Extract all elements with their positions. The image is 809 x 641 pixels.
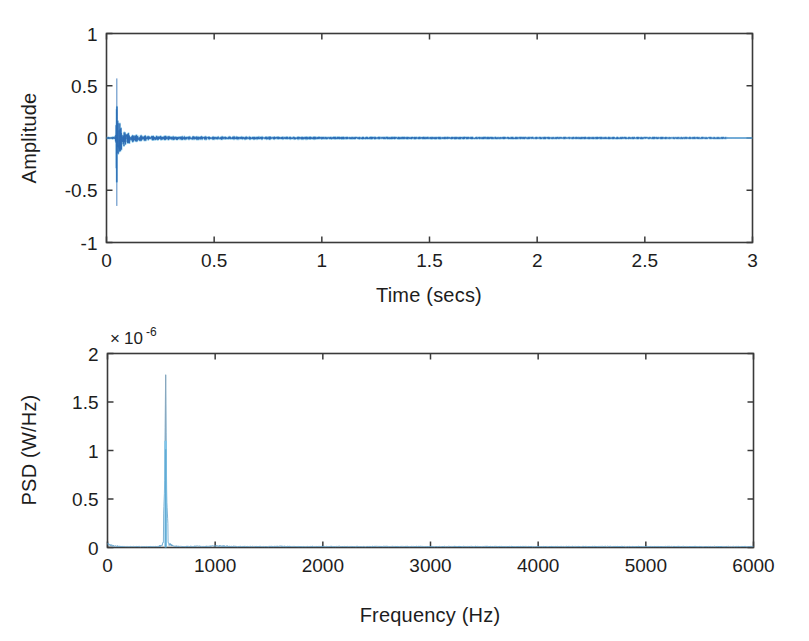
time-x-tick-label: 2.5 xyxy=(632,250,658,271)
psd-y-tick-labels: 00.511.52 xyxy=(72,344,98,559)
time-y-tick-label: 0 xyxy=(87,128,98,149)
psd-x-tick-label: 1000 xyxy=(194,555,236,576)
psd-axis-box xyxy=(108,354,754,548)
psd-plot: 0100020003000400050006000 00.511.52 × 10… xyxy=(0,320,809,641)
time-domain-panel: 00.511.522.53 -1-0.500.51 Time (secs) Am… xyxy=(0,0,809,320)
psd-axis-ticks xyxy=(108,354,754,548)
psd-exponent-times: × xyxy=(110,329,120,348)
time-x-tick-label: 2 xyxy=(532,250,543,271)
time-domain-trace xyxy=(107,78,753,205)
time-y-tick-label: -0.5 xyxy=(65,180,98,201)
psd-y-tick-label: 0 xyxy=(88,538,99,559)
time-x-tick-label: 3 xyxy=(747,250,758,271)
time-y-axis-label: Amplitude xyxy=(18,93,40,184)
time-domain-plot: 00.511.522.53 -1-0.500.51 Time (secs) Am… xyxy=(0,0,809,320)
psd-trace xyxy=(108,375,754,548)
time-x-tick-labels: 00.511.522.53 xyxy=(101,250,758,271)
psd-x-tick-label: 3000 xyxy=(409,555,451,576)
psd-panel: 0100020003000400050006000 00.511.52 × 10… xyxy=(0,320,809,641)
psd-exponent-base: 10 xyxy=(124,329,143,348)
time-y-tick-label: -1 xyxy=(81,233,98,254)
psd-x-tick-label: 4000 xyxy=(517,555,559,576)
time-y-tick-label: 0.5 xyxy=(71,76,97,97)
time-x-tick-label: 0.5 xyxy=(201,250,227,271)
psd-x-tick-label: 5000 xyxy=(625,555,667,576)
figure-root: 00.511.522.53 -1-0.500.51 Time (secs) Am… xyxy=(0,0,809,641)
psd-y-axis-label: PSD (W/Hz) xyxy=(18,395,40,506)
time-x-axis-label: Time (secs) xyxy=(376,284,482,306)
psd-y-tick-label: 0.5 xyxy=(72,489,98,510)
psd-x-tick-label: 0 xyxy=(102,555,113,576)
psd-x-tick-label: 2000 xyxy=(302,555,344,576)
time-x-tick-label: 0 xyxy=(101,250,112,271)
time-y-tick-labels: -1-0.500.51 xyxy=(65,24,98,254)
time-y-tick-label: 1 xyxy=(87,24,98,45)
psd-y-exponent: × 10 -6 xyxy=(110,325,157,348)
psd-y-tick-label: 1.5 xyxy=(72,392,98,413)
psd-y-tick-label: 2 xyxy=(88,344,99,365)
psd-y-tick-label: 1 xyxy=(88,441,99,462)
psd-x-tick-labels: 0100020003000400050006000 xyxy=(102,555,774,576)
time-x-tick-label: 1 xyxy=(317,250,328,271)
psd-x-axis-label: Frequency (Hz) xyxy=(360,604,501,626)
time-x-tick-label: 1.5 xyxy=(416,250,442,271)
psd-exponent-power: -6 xyxy=(146,325,157,339)
psd-x-tick-label: 6000 xyxy=(732,555,774,576)
